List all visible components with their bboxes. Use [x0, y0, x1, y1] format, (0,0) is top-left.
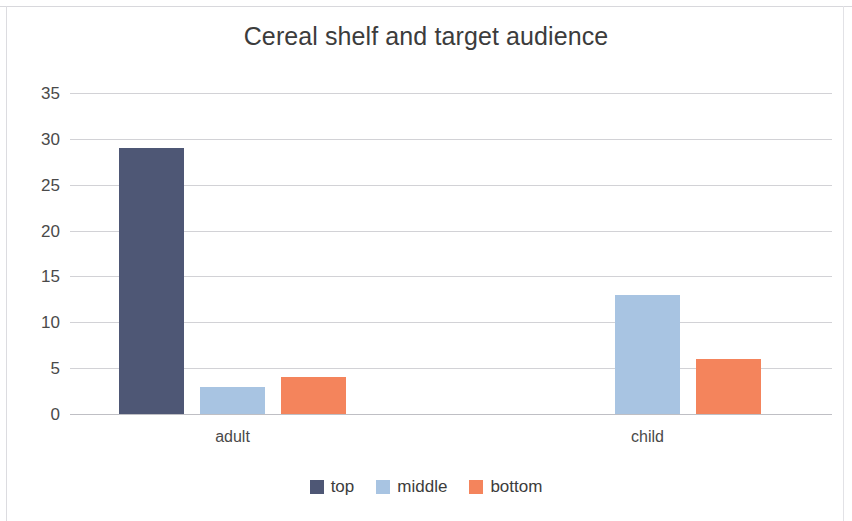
- gridline: [70, 414, 832, 415]
- y-axis-tick-label: 20: [14, 223, 60, 240]
- bar-adult-top: [119, 148, 184, 414]
- legend-label-top: top: [331, 478, 355, 495]
- y-axis-tick-label: 25: [14, 177, 60, 194]
- y-axis-tick-labels: 35302520151050: [8, 93, 60, 414]
- page-frame-right-rule: [843, 6, 844, 521]
- bar-child-bottom: [696, 359, 761, 414]
- y-axis-tick-label: 0: [14, 406, 60, 423]
- gridline: [70, 322, 832, 323]
- bar-adult-bottom: [281, 377, 346, 414]
- y-axis-tick-label: 15: [14, 268, 60, 285]
- bar-adult-middle: [200, 387, 265, 415]
- legend-swatch-icon-top: [310, 480, 324, 494]
- x-axis-tick-label-adult: adult: [119, 428, 346, 446]
- legend-swatch-icon-middle: [376, 480, 390, 494]
- plot-area: [70, 93, 832, 414]
- y-axis-tick-label: 5: [14, 360, 60, 377]
- legend-label-bottom: bottom: [490, 478, 542, 495]
- page-frame-left-rule: [6, 6, 7, 521]
- gridline: [70, 93, 832, 94]
- chart-screenshot: Cereal shelf and target audience 3530252…: [0, 0, 852, 521]
- legend-item-top[interactable]: top: [310, 478, 355, 495]
- gridline: [70, 276, 832, 277]
- page-frame-top-rule: [0, 6, 852, 7]
- chart-legend: topmiddlebottom: [0, 478, 852, 495]
- chart-title: Cereal shelf and target audience: [0, 22, 852, 51]
- bar-child-middle: [615, 295, 680, 414]
- gridline: [70, 231, 832, 232]
- y-axis-tick-label: 10: [14, 314, 60, 331]
- y-axis-tick-label: 30: [14, 131, 60, 148]
- legend-label-middle: middle: [397, 478, 447, 495]
- gridline: [70, 139, 832, 140]
- legend-item-bottom[interactable]: bottom: [469, 478, 542, 495]
- x-axis-tick-label-child: child: [534, 428, 761, 446]
- y-axis-tick-label: 35: [14, 85, 60, 102]
- legend-item-middle[interactable]: middle: [376, 478, 447, 495]
- legend-swatch-icon-bottom: [469, 480, 483, 494]
- gridline: [70, 185, 832, 186]
